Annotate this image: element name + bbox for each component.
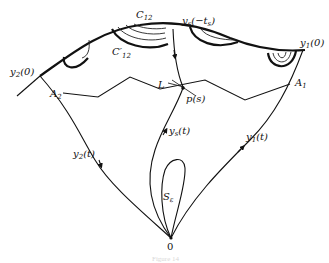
label-y2-t: y2(t) [72, 148, 95, 161]
figure-caption: Figure 14 [152, 255, 180, 263]
point-p-s [181, 86, 185, 90]
arc-right-2 [273, 52, 291, 62]
label-A1: A1 [294, 77, 307, 90]
arc-left-bump [64, 57, 88, 67]
label-ys-t: ys(t) [168, 125, 190, 138]
label-C12-prime: C′12 [112, 46, 131, 60]
arrow-y1 [238, 147, 243, 152]
path-L [63, 77, 290, 100]
arc-mid-outer [190, 27, 238, 45]
label-A2: A2 [49, 88, 62, 101]
trajectory-ys [150, 88, 183, 238]
arc-right-outer [268, 51, 296, 66]
arc-c12-outer [112, 29, 168, 47]
trajectory-y1 [171, 50, 303, 238]
label-y1-0: y1(0) [299, 37, 324, 50]
boundary-extension-left [17, 76, 40, 96]
label-p-s: p(s) [186, 93, 205, 104]
origin-point [169, 236, 172, 239]
label-y2-0: y2(0) [9, 66, 34, 79]
label-L: L [157, 79, 165, 90]
label-ys-neg-ts: ys(−ts) [181, 15, 215, 28]
label-S-epsilon: Sε [163, 191, 174, 204]
trajectory-diagram: C12 C′12 ys(−ts) y1(0) y2(0) A1 A2 L p(s… [0, 0, 329, 263]
trajectory-ys-top [173, 29, 183, 87]
boundary-curve [40, 23, 305, 76]
label-C12: C12 [136, 9, 153, 22]
label-origin: 0 [167, 241, 173, 252]
arc-right-3 [278, 52, 286, 58]
arrow-y2 [99, 160, 101, 166]
